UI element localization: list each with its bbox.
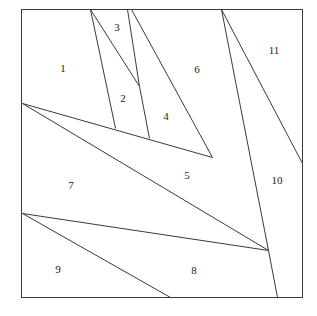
region-label-5: 5 — [184, 170, 190, 181]
outer-square — [22, 10, 303, 298]
segment-top-c-to-convergence — [222, 10, 269, 251]
segment-top-c-to-right-edge — [222, 10, 303, 164]
region-label-11: 11 — [269, 45, 280, 56]
region-label-10: 10 — [272, 175, 283, 186]
segment-top-a-to-diagonal — [91, 10, 116, 129]
region-label-3: 3 — [114, 22, 120, 33]
figure-container: 1234567891011 — [0, 0, 317, 316]
segment-convergence-to-bottom — [269, 251, 278, 298]
region-label-9: 9 — [55, 264, 61, 275]
segment-upper-fan-to-diagonal-end — [23, 104, 213, 158]
region-label-1: 1 — [60, 63, 66, 74]
region-label-8: 8 — [191, 265, 197, 276]
region-label-6: 6 — [194, 64, 200, 75]
segment-apex-to-diagonal — [140, 87, 150, 139]
region-label-2: 2 — [120, 93, 126, 104]
segment-upper-fan-to-convergence — [23, 104, 269, 251]
region-label-7: 7 — [68, 180, 74, 191]
partition-segments — [23, 10, 303, 298]
segment-lower-fan-to-bottom — [23, 214, 171, 298]
outer-square-frame — [22, 10, 303, 298]
region-label-4: 4 — [163, 111, 169, 122]
segment-lower-fan-to-convergence — [23, 214, 269, 251]
segment-top-b-to-upper-diagonal-end — [132, 10, 213, 158]
